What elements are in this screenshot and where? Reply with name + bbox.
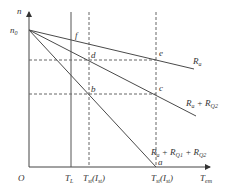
tst-tick-label: Tst(Ist) xyxy=(151,173,173,184)
tl-tick-label: TL xyxy=(65,173,74,184)
point-c-label: c xyxy=(159,83,163,93)
ra-line-label: Ra xyxy=(192,56,202,67)
axes xyxy=(29,12,210,167)
point-a-label: a xyxy=(158,157,163,167)
x-axis-label: Tem xyxy=(200,173,213,184)
point-f-label: f xyxy=(75,30,79,40)
speed-torque-diagram: n n0 O Tem TL Tst(Ist) Tst(Ist) Ra Ra + … xyxy=(0,0,229,196)
point-e-label: e xyxy=(159,48,163,58)
point-d-label: d xyxy=(91,50,96,60)
origin-label: O xyxy=(18,173,25,183)
y-axis-label: n xyxy=(17,6,22,16)
ra-rq2-line-label: Ra + RQ2 xyxy=(185,98,218,109)
tst1-tick-label: Tst(Ist) xyxy=(83,173,105,184)
ra-characteristic-line xyxy=(29,30,194,69)
n0-label: n0 xyxy=(10,25,18,36)
point-b-label: b xyxy=(91,84,96,94)
ra-rq2-characteristic-line xyxy=(29,30,196,116)
